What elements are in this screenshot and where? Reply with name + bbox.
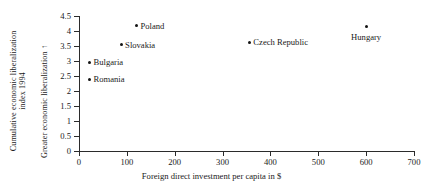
x-tick-mark xyxy=(318,152,319,156)
y-axis-title-outer-line1: Cumulative economic liberalization xyxy=(9,31,18,152)
x-tick-label: 700 xyxy=(394,158,423,167)
y-tick-label: 2 xyxy=(31,87,71,96)
y-tick-label: 3 xyxy=(31,57,71,66)
y-tick-label: 3.5 xyxy=(31,42,71,51)
data-point-label: Romania xyxy=(94,75,125,84)
x-tick-label: 200 xyxy=(155,158,195,167)
y-axis-title-outer-line2: index 1994 xyxy=(18,16,27,166)
data-point[interactable] xyxy=(135,24,138,27)
x-tick-mark xyxy=(270,152,271,156)
y-axis-title-outer: Cumulative economic liberalization index… xyxy=(9,16,28,166)
data-point-label: Bulgaria xyxy=(94,58,124,67)
data-point[interactable] xyxy=(365,25,368,28)
x-tick-mark xyxy=(127,152,128,156)
x-tick-label: 300 xyxy=(203,158,243,167)
data-point-label: Hungary xyxy=(351,33,381,42)
x-tick-label: 600 xyxy=(346,158,386,167)
y-tick-label: 4 xyxy=(31,27,71,36)
data-point[interactable] xyxy=(88,61,91,64)
x-axis-line xyxy=(79,151,415,152)
y-tick-label: 1 xyxy=(31,117,71,126)
data-point[interactable] xyxy=(88,78,91,81)
x-tick-mark xyxy=(414,152,415,156)
x-tick-label: 100 xyxy=(107,158,147,167)
scatter-chart: Cumulative economic liberalization index… xyxy=(0,0,423,189)
x-tick-mark xyxy=(175,152,176,156)
x-tick-label: 500 xyxy=(298,158,338,167)
data-point[interactable] xyxy=(120,43,123,46)
x-tick-label: 0 xyxy=(59,158,99,167)
x-tick-mark xyxy=(79,152,80,156)
x-axis-title: Foreign direct investment per capita in … xyxy=(0,172,423,181)
y-tick-label: 0.5 xyxy=(31,132,71,141)
y-tick-label: 4.5 xyxy=(31,12,71,21)
data-point-label: Slovakia xyxy=(125,41,155,50)
y-tick-label: 0 xyxy=(31,147,71,156)
x-tick-label: 400 xyxy=(250,158,290,167)
y-tick-label: 1.5 xyxy=(31,102,71,111)
x-tick-mark xyxy=(223,152,224,156)
data-point[interactable] xyxy=(248,41,251,44)
y-tick-label: 2.5 xyxy=(31,72,71,81)
data-point-label: Poland xyxy=(140,22,164,31)
data-point-label: Czech Republic xyxy=(253,38,308,47)
plot-area: PolandSlovakiaBulgariaRomaniaCzech Repub… xyxy=(79,16,414,151)
x-tick-mark xyxy=(366,152,367,156)
